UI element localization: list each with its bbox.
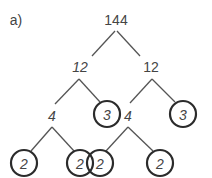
factor-tree-diagram: a) 144 12 12 4 3 4 3 2 2 2 2: [0, 0, 212, 178]
leaf-2: 2: [96, 156, 104, 172]
node-12-right: 12: [143, 59, 159, 75]
leaf-2: 2: [20, 156, 28, 172]
leaf-2: 2: [156, 156, 164, 172]
root-node: 144: [104, 12, 127, 28]
node-3-left-prime: 3: [103, 107, 111, 123]
part-label: a): [10, 12, 22, 28]
node-3-right-prime: 3: [179, 107, 187, 123]
node-12-left: 12: [72, 59, 88, 75]
leaf-2: 2: [76, 156, 84, 172]
node-4-left: 4: [48, 108, 56, 124]
node-4-right: 4: [124, 108, 132, 124]
